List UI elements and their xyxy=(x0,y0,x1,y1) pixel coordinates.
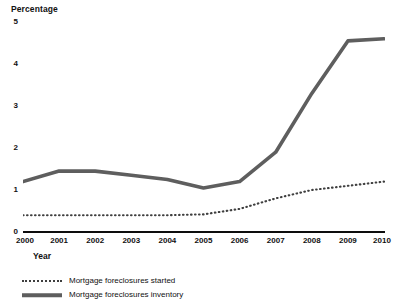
x-axis-tick-label: 2006 xyxy=(231,236,249,246)
legend-solid-line-icon xyxy=(22,290,62,300)
series-line-mortgage-foreclosures-inventory xyxy=(23,39,384,188)
x-axis-tick-label: 2007 xyxy=(267,236,285,246)
x-axis-tick-labels: 2000200120022003200420052006200720082009… xyxy=(23,236,385,250)
x-axis-tick-label: 2008 xyxy=(303,236,321,246)
y-axis-tick-label: 1 xyxy=(14,186,18,194)
x-axis-line xyxy=(23,231,385,233)
x-axis-tick-label: 2009 xyxy=(339,236,357,246)
legend-dotted-line-icon xyxy=(22,276,62,286)
legend-item[interactable]: Mortgage foreclosures inventory xyxy=(22,288,362,302)
x-axis-tick-label: 2010 xyxy=(373,236,391,246)
legend-item-label: Mortgage foreclosures inventory xyxy=(69,291,183,299)
x-axis-title: Year xyxy=(33,251,51,261)
legend-item[interactable]: Mortgage foreclosures started xyxy=(22,274,362,288)
x-axis-tick-label: 2003 xyxy=(122,236,140,246)
legend-item-label: Mortgage foreclosures started xyxy=(69,277,175,285)
legend-swatch-line xyxy=(22,280,62,282)
y-axis-tick-label: 5 xyxy=(14,18,18,26)
x-axis-tick-label: 2005 xyxy=(195,236,213,246)
x-axis-tick-label: 2000 xyxy=(16,236,34,246)
chart-legend: Mortgage foreclosures startedMortgage fo… xyxy=(22,274,362,302)
y-axis-tick-label: 2 xyxy=(14,144,18,152)
x-axis-tick-label: 2001 xyxy=(50,236,68,246)
plot-area: 012345 xyxy=(23,22,385,232)
series-canvas xyxy=(23,22,385,232)
y-axis-tick-label: 0 xyxy=(14,228,18,236)
x-axis-tick-label: 2004 xyxy=(158,236,176,246)
y-axis-tick-label: 3 xyxy=(14,102,18,110)
legend-swatch-line xyxy=(22,293,62,297)
y-axis-tick-label: 4 xyxy=(14,60,18,68)
y-axis-title: Percentage xyxy=(11,4,58,14)
x-axis-tick-label: 2002 xyxy=(86,236,104,246)
foreclosure-line-chart: Percentage 012345 2000200120022003200420… xyxy=(0,0,396,304)
